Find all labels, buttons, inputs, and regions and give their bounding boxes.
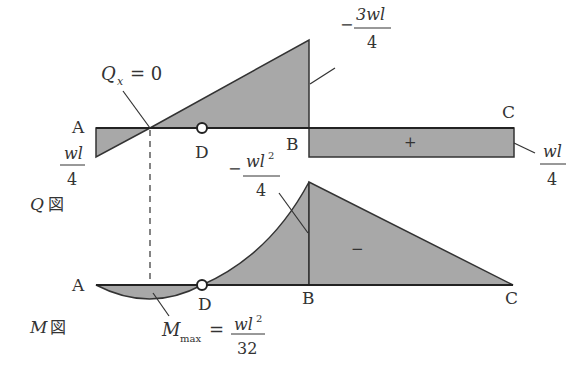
mmax-var: M bbox=[161, 319, 181, 340]
m-label-d: D bbox=[198, 294, 212, 314]
q-right-num: wl bbox=[543, 142, 562, 161]
q-left-num: wl bbox=[64, 144, 83, 163]
hinge-d-q bbox=[197, 123, 207, 133]
leader-right bbox=[514, 143, 535, 153]
mmax-den: 32 bbox=[237, 339, 257, 358]
q-label-c: C bbox=[502, 102, 515, 122]
qx-var: Q bbox=[101, 63, 116, 84]
moment-sag-region bbox=[96, 285, 202, 299]
q-diagram-var: Q bbox=[30, 194, 44, 214]
mmax-sub: max bbox=[180, 333, 201, 344]
mmax-eq: = bbox=[209, 319, 224, 340]
m-minus-sign: − bbox=[351, 240, 364, 258]
mmax-num: wl bbox=[234, 315, 253, 334]
qx-eq: = 0 bbox=[130, 63, 162, 84]
m-diagram-var: M bbox=[29, 317, 48, 337]
q-peak-num: 3wl bbox=[356, 5, 385, 24]
m-peak-den: 4 bbox=[256, 181, 266, 200]
qx-sub: x bbox=[117, 75, 124, 88]
m-label-b: B bbox=[302, 288, 315, 308]
q-peak-den: 4 bbox=[367, 33, 377, 52]
m-peak-sign: − bbox=[228, 159, 241, 178]
m-peak-num: wl bbox=[246, 152, 265, 171]
m-label-a: A bbox=[71, 275, 85, 295]
m-peak-sup: 2 bbox=[268, 150, 274, 161]
q-label-d: D bbox=[195, 142, 209, 162]
q-peak-sign: − bbox=[340, 15, 353, 34]
hinge-d-m bbox=[197, 280, 207, 290]
leader-peak bbox=[310, 68, 335, 84]
shear-left-triangle bbox=[96, 128, 150, 157]
moment-right-triangle bbox=[309, 182, 513, 285]
q-label-a: A bbox=[71, 117, 85, 137]
q-left-den: 4 bbox=[67, 170, 77, 189]
beam-diagram: A D B C + Q x = 0 wl 4 − 3wl 4 wl 4 Q 図 … bbox=[0, 0, 584, 371]
q-plus-sign: + bbox=[404, 133, 417, 151]
m-diagram-kanji: 図 bbox=[50, 318, 66, 337]
leader-qx0 bbox=[123, 91, 150, 128]
mmax-sup: 2 bbox=[256, 313, 262, 324]
shear-main-triangle bbox=[150, 40, 309, 128]
q-right-den: 4 bbox=[547, 170, 557, 189]
q-label-b: B bbox=[286, 134, 299, 154]
q-diagram-kanji: 図 bbox=[48, 195, 64, 214]
m-label-c: C bbox=[505, 288, 518, 308]
